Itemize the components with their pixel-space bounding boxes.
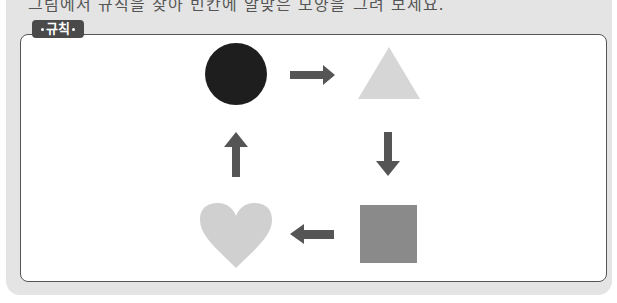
black-circle-shape: [205, 43, 267, 105]
gray-square-shape: [360, 205, 417, 263]
rule-diagram: [0, 0, 617, 303]
up-arrow-icon: [224, 132, 248, 177]
right-arrow-icon: [290, 65, 335, 85]
left-arrow-icon: [290, 224, 334, 244]
gray-heart-shape: [200, 203, 272, 268]
down-arrow-icon: [376, 132, 400, 176]
gray-triangle-shape: [358, 47, 420, 99]
